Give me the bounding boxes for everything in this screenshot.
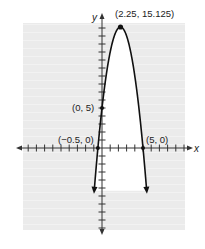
y-intercept-label: (0, 5) — [72, 102, 94, 113]
x-axis-label: x — [193, 143, 200, 154]
vertex-label: (2.25, 15.125) — [115, 8, 174, 19]
x-axis-left-arrow-icon — [16, 146, 22, 151]
x-intercept-right-point — [141, 146, 145, 150]
y-axis-down-arrow-icon — [100, 229, 105, 235]
vertex-point — [118, 24, 123, 29]
y-axis-up-arrow-icon — [100, 13, 105, 19]
y-intercept-point — [100, 106, 104, 110]
x-axis-right-arrow-icon — [187, 146, 193, 151]
y-axis-label: y — [91, 12, 98, 23]
x-intercept-left-point — [96, 146, 100, 150]
x-intercept-right-label: (5, 0) — [146, 134, 168, 145]
parabola-graph: y x (2.25, 15.125) (0, 5) (−0.5, 0) (5, … — [0, 0, 205, 249]
x-intercept-left-label: (−0.5, 0) — [58, 134, 94, 145]
